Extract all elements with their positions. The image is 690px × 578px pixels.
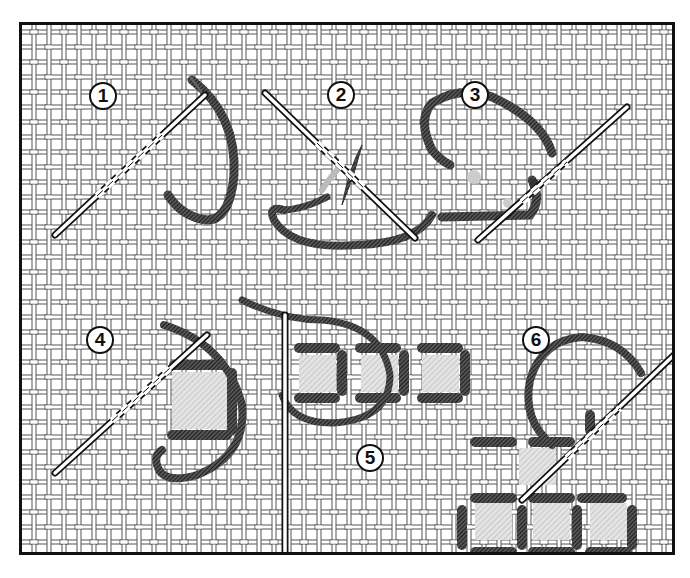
step-label-2: 2 bbox=[327, 81, 355, 109]
step-label-5: 5 bbox=[356, 444, 384, 472]
step-label-4: 4 bbox=[86, 326, 114, 354]
step-label-1: 1 bbox=[89, 82, 117, 110]
step-label-3: 3 bbox=[461, 81, 489, 109]
step-label-6: 6 bbox=[522, 326, 550, 354]
